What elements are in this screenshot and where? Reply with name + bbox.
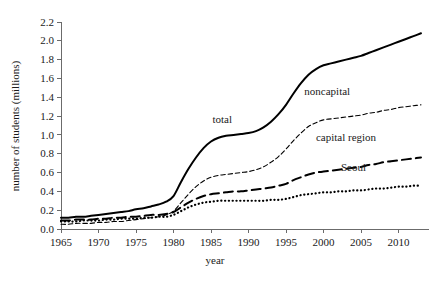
- data-line-total: [61, 33, 421, 217]
- line-chart: 0.00.20.40.60.81.01.21.41.61.82.02.2 196…: [0, 0, 440, 286]
- x-axis: 1965197019751980198519901995200020052010: [50, 229, 429, 248]
- y-tick-label: 0.4: [40, 185, 54, 197]
- x-tick-label: 1995: [275, 236, 298, 248]
- series-label-total: total: [212, 113, 232, 125]
- x-tick-label: 2000: [313, 236, 336, 248]
- y-axis-title: number of students (millions): [9, 60, 22, 191]
- x-tick-label: 1970: [88, 236, 111, 248]
- y-tick-label: 0.6: [40, 166, 54, 178]
- series-label-group: totalnoncapitalcapital regionSeoul: [212, 85, 376, 172]
- y-tick-label: 1.0: [40, 129, 54, 141]
- series-label-capital-region: capital region: [316, 131, 377, 143]
- y-tick-label: 1.6: [40, 72, 54, 84]
- x-tick-label: 1985: [200, 236, 223, 248]
- x-tick-label: 2010: [388, 236, 411, 248]
- y-tick-label: 2.2: [40, 16, 54, 28]
- x-tick-label: 2005: [350, 236, 373, 248]
- data-line-capital-region: [61, 157, 421, 220]
- y-tick-label: 1.2: [40, 110, 54, 122]
- y-tick-label: 1.4: [40, 91, 54, 103]
- y-tick-label: 0.8: [40, 147, 54, 159]
- y-tick-label: 2.0: [40, 34, 54, 46]
- chart-figure: 0.00.20.40.60.81.01.21.41.61.82.02.2 196…: [0, 0, 440, 286]
- x-tick-label: 1965: [50, 236, 73, 248]
- y-tick-label: 0.2: [40, 204, 54, 216]
- x-tick-label: 1990: [238, 236, 261, 248]
- y-tick-label: 1.8: [40, 53, 54, 65]
- data-series-group: [61, 33, 421, 224]
- y-tick-label: 0.0: [40, 223, 54, 235]
- plot-area: 0.00.20.40.60.81.01.21.41.61.82.02.2 196…: [9, 16, 429, 266]
- x-tick-label: 1980: [163, 236, 186, 248]
- x-tick-label: 1975: [125, 236, 148, 248]
- series-label-seoul: Seoul: [341, 161, 366, 173]
- series-label-noncapital: noncapital: [304, 85, 350, 97]
- x-axis-title: year: [206, 254, 225, 266]
- y-axis: 0.00.20.40.60.81.01.21.41.61.82.02.2: [40, 16, 61, 235]
